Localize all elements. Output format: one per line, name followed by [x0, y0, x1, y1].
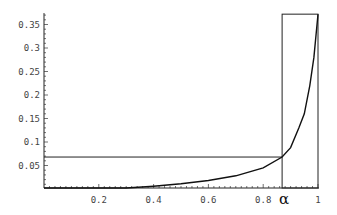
- data-curve: [44, 14, 318, 188]
- y-tick-label: 0.15: [18, 114, 40, 124]
- x-tick-label: 0.8: [255, 195, 271, 205]
- y-tick-label: 0.25: [18, 67, 40, 77]
- x-tick-label: 0.6: [200, 195, 216, 205]
- x-tick-label: 1: [315, 195, 320, 205]
- tick-marks: [44, 15, 318, 188]
- x-tick-label: 0.4: [145, 195, 161, 205]
- y-tick-label: 0.35: [18, 20, 40, 30]
- axes: [44, 13, 319, 188]
- annotations: [44, 14, 318, 188]
- tick-labels: 0.20.40.60.810.050.10.150.20.250.30.35: [18, 20, 320, 206]
- y-tick-label: 0.3: [24, 43, 40, 53]
- alpha-rectangle: [282, 14, 318, 188]
- x-tick-label: 0.2: [91, 195, 107, 205]
- y-tick-label: 0.1: [24, 137, 40, 147]
- alpha-label: α: [279, 190, 289, 208]
- y-tick-label: 0.05: [18, 161, 40, 171]
- y-tick-label: 0.2: [24, 90, 40, 100]
- chart: 0.20.40.60.810.050.10.150.20.250.30.35 α: [0, 0, 337, 215]
